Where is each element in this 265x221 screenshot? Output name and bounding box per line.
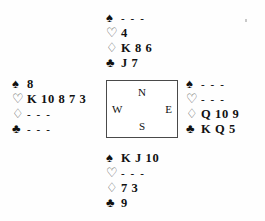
hand-east: ♠ - - - ♡ - - - ♢ Q 10 9 ♣ K Q 5 [186, 76, 239, 136]
compass-label-east: E [165, 104, 172, 115]
heart-icon: ♡ [106, 25, 119, 40]
hand-north: ♠ - - - ♡ 4 ♢ K 8 6 ♣ J 7 [106, 10, 152, 70]
hand-east-diamonds-cards: Q 10 9 [199, 107, 239, 122]
hand-north-hearts-cards: 4 [119, 26, 128, 41]
hand-east-hearts-cards: - - - [199, 92, 226, 107]
hand-west-clubs-row: ♣ - - - [12, 121, 86, 136]
hand-north-diamonds-cards: K 8 6 [119, 41, 152, 56]
hand-south-spades-cards: K J 10 [119, 151, 159, 166]
heart-icon: ♡ [106, 165, 119, 180]
bridge-deal-diagram: ♠ - - - ♡ 4 ♢ K 8 6 ♣ J 7 ♠ 8 ♡ K 10 8 7… [0, 0, 265, 221]
hand-south-hearts-row: ♡ - - - [106, 165, 159, 180]
club-icon: ♣ [186, 121, 199, 136]
spade-icon: ♠ [106, 150, 119, 165]
spade-icon: ♠ [12, 76, 25, 91]
hand-west-diamonds-row: ♢ - - - [12, 106, 86, 121]
hand-west-diamonds-cards: - - - [25, 107, 52, 122]
hand-north-hearts-row: ♡ 4 [106, 25, 152, 40]
diamond-icon: ♢ [106, 40, 119, 55]
diamond-icon: ♢ [12, 106, 25, 121]
hand-north-clubs-cards: J 7 [119, 56, 138, 71]
hand-south-diamonds-row: ♢ 7 3 [106, 180, 159, 195]
hand-south: ♠ K J 10 ♡ - - - ♢ 7 3 ♣ 9 [106, 150, 159, 210]
compass-label-south: S [139, 121, 145, 132]
club-icon: ♣ [106, 195, 119, 210]
hand-east-hearts-row: ♡ - - - [186, 91, 239, 106]
hand-north-spades-cards: - - - [119, 11, 146, 26]
scan-artifact-speck [245, 19, 247, 22]
diamond-icon: ♢ [186, 106, 199, 121]
compass-label-west: W [112, 104, 122, 115]
hand-west: ♠ 8 ♡ K 10 8 7 3 ♢ - - - ♣ - - - [12, 76, 86, 136]
hand-east-clubs-row: ♣ K Q 5 [186, 121, 239, 136]
hand-south-clubs-cards: 9 [119, 196, 128, 211]
heart-icon: ♡ [186, 91, 199, 106]
spade-icon: ♠ [186, 76, 199, 91]
hand-north-diamonds-row: ♢ K 8 6 [106, 40, 152, 55]
hand-west-spades-cards: 8 [25, 77, 34, 92]
diamond-icon: ♢ [106, 180, 119, 195]
hand-south-hearts-cards: - - - [119, 166, 146, 181]
hand-west-hearts-cards: K 10 8 7 3 [25, 92, 86, 107]
hand-west-clubs-cards: - - - [25, 122, 52, 137]
hand-south-spades-row: ♠ K J 10 [106, 150, 159, 165]
club-icon: ♣ [12, 121, 25, 136]
spade-icon: ♠ [106, 10, 119, 25]
heart-icon: ♡ [12, 91, 25, 106]
hand-east-diamonds-row: ♢ Q 10 9 [186, 106, 239, 121]
hand-west-hearts-row: ♡ K 10 8 7 3 [12, 91, 86, 106]
hand-east-clubs-cards: K Q 5 [199, 122, 236, 137]
hand-north-clubs-row: ♣ J 7 [106, 55, 152, 70]
hand-north-spades-row: ♠ - - - [106, 10, 152, 25]
compass-box: N W E S [106, 80, 178, 138]
hand-east-spades-row: ♠ - - - [186, 76, 239, 91]
hand-west-spades-row: ♠ 8 [12, 76, 86, 91]
hand-east-spades-cards: - - - [199, 77, 226, 92]
compass-label-north: N [138, 87, 146, 98]
hand-south-diamonds-cards: 7 3 [119, 181, 138, 196]
hand-south-clubs-row: ♣ 9 [106, 195, 159, 210]
club-icon: ♣ [106, 55, 119, 70]
